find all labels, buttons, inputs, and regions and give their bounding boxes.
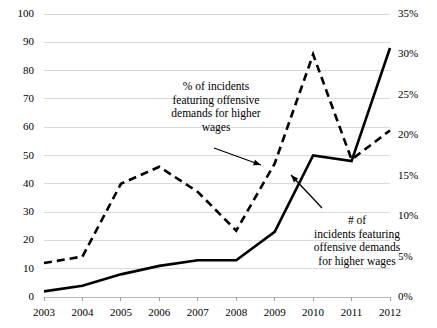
y-axis-left-tick-label: 80 [4, 65, 34, 76]
y-axis-left-tick-label: 30 [4, 206, 34, 217]
x-axis-tick-label: 2011 [332, 307, 372, 318]
y-axis-left-tick-label: 20 [4, 234, 34, 245]
axis-ticks-group [44, 297, 390, 301]
x-axis-tick-label: 2003 [24, 307, 64, 318]
x-axis-tick-label: 2006 [139, 307, 179, 318]
x-axis-tick-label: 2007 [178, 307, 218, 318]
annotation-percent-series: % of incidents featuring offensive deman… [146, 80, 286, 134]
x-axis-tick-label: 2008 [216, 307, 256, 318]
y-axis-right-tick-label: 35% [398, 8, 432, 19]
y-axis-left-tick-label: 60 [4, 121, 34, 132]
y-axis-right-tick-label: 30% [398, 48, 432, 59]
y-axis-right-tick-label: 25% [398, 89, 432, 100]
y-axis-right-tick-label: 20% [398, 129, 432, 140]
chart-plot-area [0, 0, 437, 328]
y-axis-left-tick-label: 0 [4, 291, 34, 302]
y-axis-left-tick-label: 90 [4, 36, 34, 47]
x-axis-tick-label: 2010 [293, 307, 333, 318]
y-axis-right-tick-label: 15% [398, 170, 432, 181]
y-axis-left-tick-label: 50 [4, 150, 34, 161]
x-axis-tick-label: 2004 [62, 307, 102, 318]
annotation-count-series: # of incidents featuring offensive deman… [284, 214, 430, 268]
y-axis-left-tick-label: 100 [4, 8, 34, 19]
chart-container: 0102030405060708090100 0%5%10%15%20%25%3… [0, 0, 437, 328]
x-axis-tick-label: 2005 [101, 307, 141, 318]
annotation-arrows-group [214, 148, 322, 208]
y-axis-left-tick-label: 10 [4, 263, 34, 274]
y-axis-left-tick-label: 40 [4, 178, 34, 189]
x-axis-tick-label: 2009 [255, 307, 295, 318]
x-axis-tick-label: 2012 [370, 307, 410, 318]
y-axis-right-tick-label: 0% [398, 291, 432, 302]
y-axis-left-tick-label: 70 [4, 93, 34, 104]
arrow-to-percent-series [214, 148, 261, 165]
